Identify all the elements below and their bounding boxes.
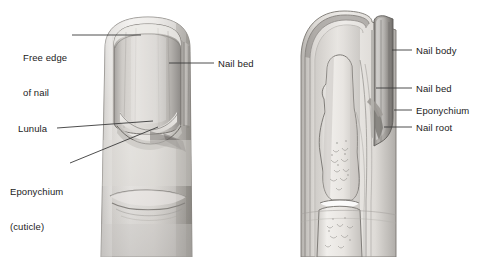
label-free-edge-of-nail: Free edge of nail [23, 29, 67, 121]
label-eponychium-right: Eponychium [416, 105, 469, 117]
label-lunula: Lunula [18, 123, 47, 135]
label-eponychium-line1: Eponychium [10, 186, 63, 198]
sagittal-section-illustration [301, 11, 396, 257]
label-free-edge-line1: Free edge [23, 52, 67, 64]
dorsal-fingertip-illustration [101, 17, 198, 257]
label-nail-body: Nail body [416, 45, 457, 57]
nail-bed-sagittal [371, 30, 374, 140]
middle-phalanx-bone [317, 206, 362, 257]
lateral-nail-fold [181, 40, 191, 126]
label-nail-bed-right: Nail bed [416, 83, 452, 95]
label-eponychium-cuticle: Eponychium (cuticle) [10, 163, 63, 255]
label-free-edge-line2: of nail [23, 87, 67, 99]
label-eponychium-line2: (cuticle) [10, 221, 63, 233]
label-nail-bed-left: Nail bed [218, 58, 254, 70]
label-nail-root: Nail root [416, 122, 452, 134]
nail-anatomy-figure: Free edge of nail Nail bed Lunula Eponyc… [0, 0, 503, 257]
